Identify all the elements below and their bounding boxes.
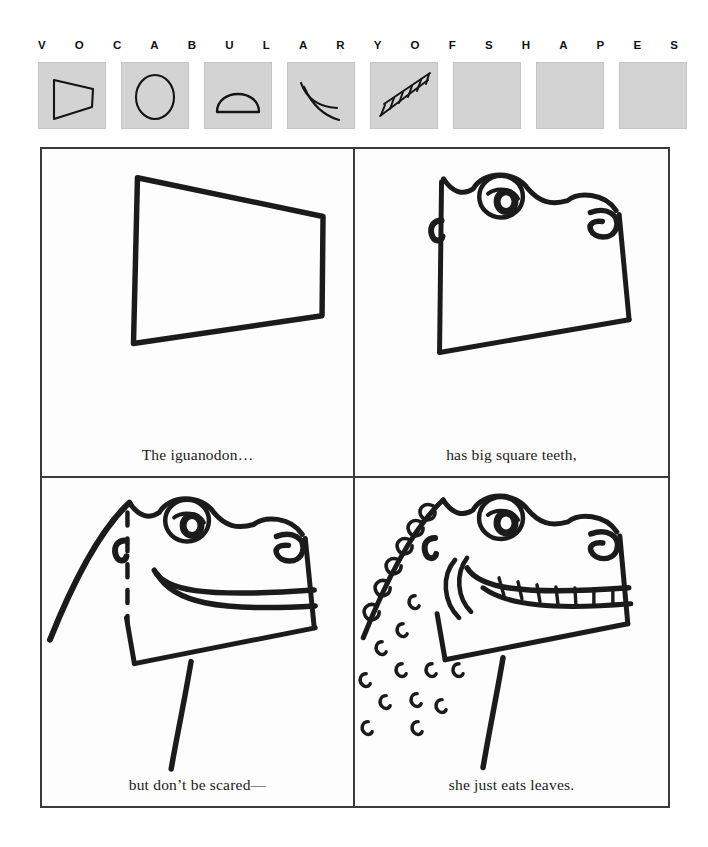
circle-swatch (121, 62, 189, 129)
title-letter: P (597, 39, 605, 51)
title-letter: E (633, 39, 641, 51)
blank-swatch-2 (536, 62, 604, 129)
panel-3-caption: but don’t be scared— (42, 776, 353, 794)
panel-1: The iguanodon… (42, 149, 355, 478)
dome-swatch (204, 62, 272, 129)
blank-swatch-1 (453, 62, 521, 129)
title-letter: F (449, 39, 456, 51)
panel-2-drawing (355, 149, 668, 476)
title-letter: O (75, 39, 84, 51)
title-letter: Y (374, 39, 382, 51)
panel-3: but don’t be scared— (42, 478, 355, 807)
shape-vocabulary-strip (38, 62, 683, 132)
title-letter: A (299, 39, 307, 51)
ladder-swatch (370, 62, 438, 129)
title-letter: A (559, 39, 567, 51)
title-letter: R (336, 39, 344, 51)
title-letter: C (113, 39, 121, 51)
dome-icon (204, 62, 272, 129)
panel-4-caption: she just eats leaves. (355, 776, 668, 794)
title-letter: H (522, 39, 530, 51)
ladder-band-icon (370, 62, 438, 129)
page-title: V O C A B U L A R Y O F S H A P E S (38, 36, 678, 54)
panel-2-caption: has big square teeth, (355, 446, 668, 464)
title-letter: O (411, 39, 420, 51)
circle-icon (121, 62, 189, 129)
panel-1-caption: The iguanodon… (42, 446, 353, 464)
title-letter: V (38, 39, 46, 51)
comic-grid: The iguanodon… has (40, 147, 670, 808)
blank-swatch-3 (619, 62, 687, 129)
title-letter: S (485, 39, 493, 51)
title-letter: A (150, 39, 158, 51)
title-letter: U (225, 39, 233, 51)
panel-4-drawing (355, 478, 668, 807)
curved-lines-icon (287, 62, 355, 129)
panel-2: has big square teeth, (355, 149, 668, 478)
trapezoid-icon (38, 62, 106, 129)
title-letter: S (670, 39, 678, 51)
title-letter: B (188, 39, 196, 51)
title-letter: L (263, 39, 270, 51)
panel-1-drawing (42, 149, 353, 476)
panel-4: she just eats leaves. (355, 478, 668, 807)
panel-3-drawing (42, 478, 353, 807)
curves-swatch (287, 62, 355, 129)
header-band: V O C A B U L A R Y O F S H A P E S (0, 0, 708, 140)
trapezoid-swatch (38, 62, 106, 129)
